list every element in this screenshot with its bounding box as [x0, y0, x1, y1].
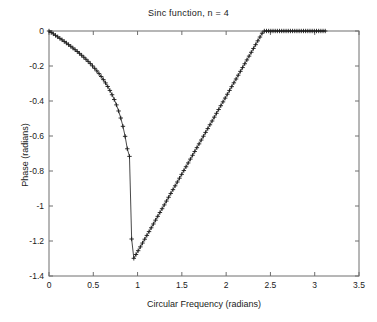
series-marker: [169, 191, 173, 195]
x-tick-label: 1.5: [176, 280, 188, 290]
x-tick-label: 0.5: [87, 280, 99, 290]
series-marker: [160, 207, 164, 211]
axes-frame: [49, 31, 359, 276]
series-marker: [136, 248, 140, 252]
series-marker: [142, 237, 146, 241]
series-marker: [212, 115, 216, 119]
series-marker: [195, 145, 199, 149]
series-marker: [177, 176, 181, 180]
series-marker: [243, 62, 247, 66]
series-marker: [134, 252, 138, 256]
y-tick-label: -1: [36, 201, 44, 211]
series-marker: [216, 107, 220, 111]
series-marker: [149, 226, 153, 230]
x-tick-labels: 00.511.522.533.5: [47, 280, 366, 290]
series-marker: [253, 42, 257, 46]
series-marker: [110, 93, 114, 97]
series-marker: [225, 92, 229, 96]
series-marker: [116, 109, 120, 113]
series-marker: [188, 157, 192, 161]
series-marker: [153, 218, 157, 222]
y-tick-marks: [49, 31, 359, 276]
series-marker: [179, 172, 183, 176]
series-marker: [132, 256, 136, 260]
series-marker: [114, 103, 118, 107]
series-marker: [199, 138, 203, 142]
x-tick-label: 0: [47, 280, 52, 290]
series-marker: [256, 39, 260, 43]
series-marker: [240, 65, 244, 69]
x-tick-marks: [49, 31, 359, 276]
series-marker: [245, 58, 249, 62]
plot-area: 00.511.522.533.5 0-0.2-0.4-0.6-0.8-1-1.2…: [0, 0, 377, 322]
series-marker: [127, 154, 131, 158]
y-tick-label: -0.2: [29, 61, 44, 71]
series-marker: [236, 73, 240, 77]
series-marker: [103, 81, 107, 85]
series-marker: [193, 149, 197, 153]
series-marker: [123, 134, 127, 138]
y-tick-label: -0.6: [29, 131, 44, 141]
series-marker: [214, 111, 218, 115]
y-tick-label: -1.2: [29, 236, 44, 246]
series-marker: [175, 180, 179, 184]
series-marker: [258, 35, 262, 39]
series-marker: [186, 161, 190, 165]
y-tick-label: 0: [39, 26, 44, 36]
series-marker: [108, 88, 112, 92]
series-marker: [171, 187, 175, 191]
series-marker: [201, 134, 205, 138]
y-tick-label: -0.4: [29, 96, 44, 106]
y-tick-labels: 0-0.2-0.4-0.6-0.8-1-1.2-1.4: [29, 26, 44, 281]
series-marker: [166, 195, 170, 199]
series-marker: [145, 233, 149, 237]
series-marker: [221, 100, 225, 104]
series-marker: [323, 29, 327, 33]
series-marker: [219, 104, 223, 108]
series-marker: [232, 81, 236, 85]
series-marker: [158, 210, 162, 214]
series-marker: [238, 69, 242, 73]
series-marker: [223, 96, 227, 100]
series-marker: [247, 54, 251, 58]
series-marker: [138, 245, 142, 249]
y-tick-label: -1.4: [29, 271, 44, 281]
x-tick-label: 2: [224, 280, 229, 290]
x-tick-label: 3: [312, 280, 317, 290]
x-tick-label: 3.5: [353, 280, 365, 290]
series-marker: [208, 123, 212, 127]
series-marker: [210, 119, 214, 123]
series-marker: [206, 126, 210, 130]
series-marker: [112, 97, 116, 101]
series-marker: [140, 241, 144, 245]
series-marker: [230, 84, 234, 88]
series-marker: [164, 199, 168, 203]
series-marker: [173, 184, 177, 188]
series-marker: [121, 124, 125, 128]
series-marker: [106, 84, 110, 88]
series-marker: [162, 203, 166, 207]
series-marker: [197, 142, 201, 146]
figure-canvas: Sinc function, n = 4 Phase (radians) Cir…: [0, 0, 377, 322]
series-marker: [234, 77, 238, 81]
series-marker: [129, 237, 133, 241]
series-marker: [119, 116, 123, 120]
series-marker: [156, 214, 160, 218]
series-marker: [151, 222, 155, 226]
series-marker: [251, 46, 255, 50]
series-marker: [249, 50, 253, 54]
series-marker: [190, 153, 194, 157]
data-series-markers: [47, 29, 328, 261]
x-tick-label: 1: [135, 280, 140, 290]
series-marker: [227, 88, 231, 92]
series-marker: [203, 130, 207, 134]
series-marker: [184, 165, 188, 169]
x-tick-label: 2.5: [265, 280, 277, 290]
series-marker: [147, 229, 151, 233]
series-marker: [125, 147, 129, 151]
series-marker: [182, 168, 186, 172]
y-tick-label: -0.8: [29, 166, 44, 176]
